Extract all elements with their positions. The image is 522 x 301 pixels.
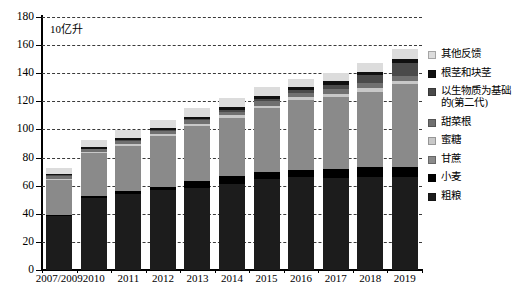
y-axis-tick-mark	[36, 242, 41, 243]
bar-segment[interactable]	[184, 126, 210, 182]
bar-segment[interactable]	[115, 130, 141, 138]
y-axis-tick-mark	[36, 214, 41, 215]
legend-swatch-icon	[428, 70, 436, 78]
x-axis-tick-mark	[353, 269, 354, 273]
legend-swatch-icon	[428, 137, 436, 145]
y-axis-tick-label: 120	[0, 95, 34, 107]
legend-swatch-icon	[428, 156, 436, 164]
bar-segment[interactable]	[219, 98, 245, 107]
bar-stack[interactable]	[392, 49, 418, 270]
stacked-bar-chart: 10亿升 020406080100120140160180 2007/20092…	[0, 0, 522, 301]
bar-segment[interactable]	[357, 92, 383, 168]
x-axis-tick-mark	[284, 269, 285, 273]
bar-segment[interactable]	[254, 179, 280, 270]
bar-segment[interactable]	[357, 63, 383, 72]
bar-segment[interactable]	[357, 167, 383, 177]
bar-segment[interactable]	[288, 177, 314, 270]
bar-segment[interactable]	[392, 177, 418, 270]
bar-segment[interactable]	[323, 169, 349, 178]
y-axis-tick-mark	[36, 129, 41, 130]
bar-segment[interactable]	[323, 97, 349, 169]
y-axis-tick-mark	[36, 45, 41, 46]
x-axis-tick-mark	[42, 269, 43, 273]
bar-segment[interactable]	[150, 136, 176, 187]
legend-item[interactable]: 小麦	[428, 171, 522, 183]
x-axis-tick-mark	[77, 269, 78, 273]
plot-area	[42, 17, 422, 270]
x-axis-tick-mark	[422, 269, 423, 273]
bar-segment[interactable]	[184, 188, 210, 270]
x-axis-tick-mark	[249, 269, 250, 273]
bar-stack[interactable]	[150, 120, 176, 270]
legend-item-label: 其他反馈	[441, 48, 481, 60]
bar-segment[interactable]	[392, 63, 418, 76]
y-axis-tick-label: 20	[0, 236, 34, 248]
bar-segment[interactable]	[323, 73, 349, 81]
legend-item[interactable]: 甘蔗	[428, 153, 522, 165]
y-axis-tick-mark	[36, 17, 41, 18]
bar-segment[interactable]	[357, 177, 383, 270]
bar-stack[interactable]	[184, 108, 210, 270]
legend-item[interactable]: 以生物质为基础 的(第二代)	[428, 85, 522, 109]
bar-segment[interactable]	[288, 170, 314, 178]
legend-item-label: 甘蔗	[441, 153, 461, 165]
bar-segment[interactable]	[115, 146, 141, 192]
legend-item-label: 小麦	[441, 171, 461, 183]
bar-series-group	[42, 17, 422, 270]
x-axis-tick-mark	[215, 269, 216, 273]
bar-segment[interactable]	[392, 167, 418, 177]
bar-segment[interactable]	[184, 108, 210, 116]
legend-item-label: 以生物质为基础 的(第二代)	[441, 85, 511, 109]
bar-stack[interactable]	[81, 140, 107, 270]
legend-item-label: 蜜糖	[441, 134, 461, 146]
bar-segment[interactable]	[357, 75, 383, 83]
legend-item-label: 根茎和块茎	[441, 67, 491, 79]
legend-item[interactable]: 其他反馈	[428, 48, 522, 60]
x-axis-tick-label: 2019	[375, 272, 435, 284]
x-axis-tick-mark	[180, 269, 181, 273]
bar-segment[interactable]	[288, 79, 314, 87]
legend-item[interactable]: 甜菜根	[428, 116, 522, 128]
bar-segment[interactable]	[46, 216, 72, 270]
bar-stack[interactable]	[46, 168, 72, 271]
bar-segment[interactable]	[323, 178, 349, 270]
bar-segment[interactable]	[115, 194, 141, 270]
x-axis-tick-mark	[387, 269, 388, 273]
bar-segment[interactable]	[150, 120, 176, 128]
chart-legend: 其他反馈根茎和块茎以生物质为基础 的(第二代)甜菜根蜜糖甘蔗小麦粗粮	[428, 48, 522, 208]
x-axis-tick-mark	[318, 269, 319, 273]
bar-segment[interactable]	[288, 100, 314, 170]
bar-segment[interactable]	[392, 84, 418, 166]
bar-segment[interactable]	[219, 184, 245, 270]
y-axis-tick-label: 100	[0, 123, 34, 135]
bar-segment[interactable]	[254, 87, 280, 96]
bar-segment[interactable]	[219, 176, 245, 184]
bar-segment[interactable]	[81, 153, 107, 196]
bar-segment[interactable]	[81, 198, 107, 270]
legend-item[interactable]: 粗粮	[428, 190, 522, 202]
bar-stack[interactable]	[254, 87, 280, 270]
legend-item-label: 甜菜根	[441, 116, 471, 128]
bar-segment[interactable]	[81, 140, 107, 147]
y-axis-tick-label: 160	[0, 39, 34, 51]
bar-segment[interactable]	[254, 108, 280, 172]
x-axis-tick-mark	[111, 269, 112, 273]
legend-item[interactable]: 根茎和块茎	[428, 67, 522, 79]
y-axis-tick-label: 140	[0, 67, 34, 79]
legend-swatch-icon	[428, 193, 436, 201]
bar-segment[interactable]	[150, 190, 176, 270]
bar-stack[interactable]	[219, 98, 245, 270]
bar-segment[interactable]	[254, 172, 280, 179]
bar-segment[interactable]	[392, 49, 418, 59]
bar-stack[interactable]	[357, 63, 383, 270]
bar-segment[interactable]	[46, 180, 72, 214]
legend-item[interactable]: 蜜糖	[428, 134, 522, 146]
bar-stack[interactable]	[115, 130, 141, 270]
bar-segment[interactable]	[219, 118, 245, 176]
bar-stack[interactable]	[323, 73, 349, 270]
y-axis-tick-mark	[36, 186, 41, 187]
y-axis-tick-label: 180	[0, 11, 34, 23]
y-axis-tick-label: 80	[0, 152, 34, 164]
legend-swatch-icon	[428, 51, 436, 59]
bar-stack[interactable]	[288, 79, 314, 270]
